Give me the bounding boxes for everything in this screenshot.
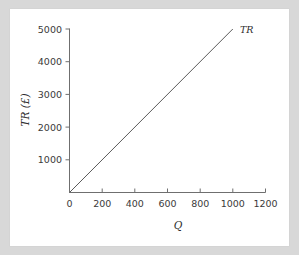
x-tick-label-400: 400 <box>126 198 144 209</box>
y-tick-label-2000: 2000 <box>38 122 62 133</box>
y-axis-title: TR (£) <box>19 93 31 126</box>
tr-line-series <box>70 29 233 193</box>
y-tick-label-1000: 1000 <box>38 154 62 165</box>
x-tick-label-600: 600 <box>158 198 176 209</box>
y-tick-label-4000: 4000 <box>38 56 62 67</box>
chart-canvas: 5000 4000 3000 2000 1000 0 200 400 600 8… <box>0 0 299 255</box>
x-tick-label-800: 800 <box>191 198 209 209</box>
x-tick-label-0: 0 <box>66 198 72 209</box>
y-tick-label-3000: 3000 <box>38 89 62 100</box>
figure-root: 5000 4000 3000 2000 1000 0 200 400 600 8… <box>0 0 299 255</box>
x-axis-title: Q <box>174 219 183 232</box>
x-tick-label-1000: 1000 <box>221 198 245 209</box>
x-tick-label-1200: 1200 <box>253 198 277 209</box>
y-tick-label-5000: 5000 <box>38 24 62 35</box>
x-tick-label-200: 200 <box>93 198 111 209</box>
tr-series-label: TR <box>240 24 254 35</box>
